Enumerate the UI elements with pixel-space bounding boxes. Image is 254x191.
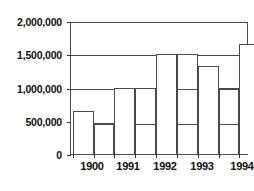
x-tick-1: [94, 154, 95, 158]
y-tick-0: [67, 155, 71, 156]
bar-6: [198, 66, 219, 154]
bar-chart: 2,000,000 1,500,000 1,000,000 500,000 0: [0, 0, 254, 191]
bar-7: [219, 88, 239, 155]
bar-4: [156, 54, 177, 154]
x-tick-3: [135, 154, 136, 158]
x-tick-8: [239, 154, 240, 158]
y-tick-label-1000000: 1,000,000: [17, 83, 62, 95]
inner-rule-bar1-470000: [94, 124, 114, 125]
inner-rule-bar3-470000: [135, 124, 156, 125]
y-tick-label-1500000: 1,500,000: [17, 49, 62, 61]
plot-area: [70, 22, 248, 155]
x-tick-2: [114, 154, 115, 158]
x-tick-label-1992: 1992: [153, 160, 176, 172]
x-tick-label-1994: 1994: [230, 160, 253, 172]
bar-8: [239, 44, 254, 154]
x-axis-labels: 1900 1991 1992 1993 1994: [70, 160, 248, 186]
bar-1: [94, 123, 114, 154]
bar-2: [114, 88, 135, 155]
y-tick-label-0: 0: [56, 149, 62, 161]
inner-rule-bar7-470000: [219, 124, 239, 125]
inner-rule-bar7-1000000: [219, 89, 239, 90]
bar-3: [135, 88, 156, 155]
bar-series: [71, 22, 248, 154]
x-tick-4: [156, 154, 157, 158]
y-tick-label-500000: 500,000: [25, 116, 62, 128]
x-tick-7: [219, 154, 220, 158]
x-tick-6: [198, 154, 199, 158]
inner-rule-bar5-470000: [177, 124, 198, 125]
x-tick-label-1900: 1900: [80, 160, 103, 172]
x-tick-label-1991: 1991: [116, 160, 139, 172]
inner-rule-bar5-1000000: [177, 89, 198, 90]
x-tick-label-1993: 1993: [190, 160, 213, 172]
x-tick-0: [73, 154, 74, 158]
bar-0: [73, 111, 94, 154]
y-tick-label-2000000: 2,000,000: [17, 16, 62, 28]
x-tick-5: [177, 154, 178, 158]
y-axis-labels: 2,000,000 1,500,000 1,000,000 500,000 0: [0, 0, 66, 191]
bar-5: [177, 54, 198, 154]
